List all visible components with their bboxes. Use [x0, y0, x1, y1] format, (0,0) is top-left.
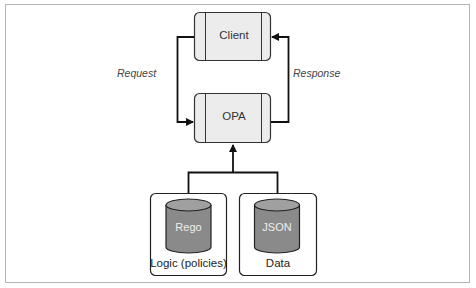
inputs-edge — [189, 145, 278, 193]
client-label: Client — [206, 29, 262, 41]
request-edge — [178, 37, 195, 122]
response-edge — [271, 37, 289, 122]
opa-label: OPA — [206, 110, 262, 122]
logic-caption: Logic (policies) — [150, 257, 227, 269]
data-caption: Data — [239, 257, 317, 269]
rego-label: Rego — [166, 221, 211, 233]
json-label: JSON — [254, 221, 300, 233]
request-label: Request — [117, 67, 156, 79]
response-label: Response — [293, 67, 340, 79]
diagram-canvas — [0, 0, 476, 288]
